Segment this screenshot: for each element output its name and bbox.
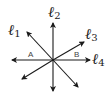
label-l1: ℓ1 <box>8 21 21 39</box>
angle-label-a: A <box>28 50 34 59</box>
label-l2: ℓ2 <box>48 3 61 21</box>
lines-diagram: ℓ1 ℓ2 ℓ3 ℓ4 A B <box>0 0 112 96</box>
label-l3: ℓ3 <box>85 25 98 43</box>
label-l4: ℓ4 <box>92 50 105 68</box>
angle-label-b: B <box>74 50 79 59</box>
